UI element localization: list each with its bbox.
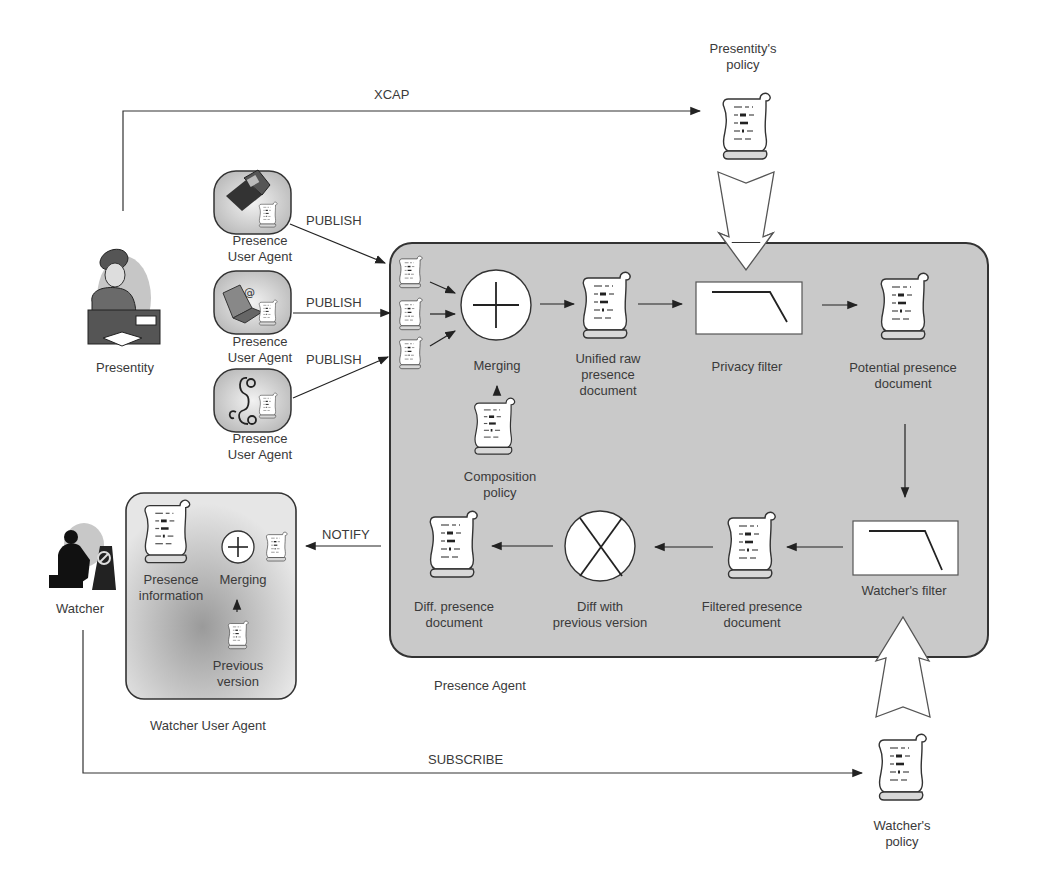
subscribe-label: SUBSCRIBE xyxy=(428,752,503,767)
presentity-label: Presentity xyxy=(96,360,154,376)
potential-presence-label: Potential presencedocument xyxy=(849,360,957,392)
composition-policy-document-icon xyxy=(475,398,515,454)
watcher-user-agent-title: Watcher User Agent xyxy=(150,718,266,734)
filtered-presence-label: Filtered presencedocument xyxy=(702,599,802,631)
watcher-policy-document-icon xyxy=(879,734,926,800)
merging-operator-icon xyxy=(461,270,531,340)
potential-presence-document-icon xyxy=(881,273,928,339)
watcher-person-icon xyxy=(49,523,116,590)
filtered-presence-document-icon xyxy=(728,512,775,578)
presence-user-agent-2: @ xyxy=(214,271,291,334)
presentity-person-icon xyxy=(88,249,160,346)
incoming-document-3-icon xyxy=(400,337,423,369)
svg-text:@: @ xyxy=(244,286,255,299)
presence-user-agent-3 xyxy=(214,369,291,432)
wua-incoming-document-icon xyxy=(266,532,287,561)
presence-information-document-icon xyxy=(145,500,190,562)
previous-version-document-icon xyxy=(228,621,248,649)
xcap-connector xyxy=(123,111,700,211)
watcher-policy-label: Watcher'spolicy xyxy=(874,818,931,850)
wua-merging-operator-icon xyxy=(222,531,254,563)
merging-label: Merging xyxy=(474,358,521,374)
watcher-label: Watcher xyxy=(56,601,104,617)
presence-information-label: Presenceinformation xyxy=(139,572,203,604)
presentity-policy-document-icon xyxy=(723,93,770,159)
publish-label-2: PUBLISH xyxy=(306,295,362,310)
wua-merging-label: Merging xyxy=(220,572,267,588)
pua-1-label: PresenceUser Agent xyxy=(228,233,292,265)
previous-version-label: Previousversion xyxy=(213,658,264,690)
watchers-filter-label: Watcher's filter xyxy=(861,583,946,599)
pua-2-label: PresenceUser Agent xyxy=(228,334,292,366)
privacy-filter-icon xyxy=(696,282,802,334)
unified-raw-document-icon xyxy=(583,272,630,338)
publish-label-3: PUBLISH xyxy=(306,352,362,367)
privacy-filter-label: Privacy filter xyxy=(712,359,783,375)
diff-presence-document-icon xyxy=(430,511,477,577)
xcap-label: XCAP xyxy=(374,87,409,102)
incoming-document-1-icon xyxy=(400,256,423,288)
diff-label: Diff withprevious version xyxy=(553,599,648,631)
watchers-filter-icon xyxy=(853,521,958,575)
pua-3-label: PresenceUser Agent xyxy=(228,431,292,463)
notify-label: NOTIFY xyxy=(322,527,370,542)
diff-presence-label: Diff. presencedocument xyxy=(414,599,494,631)
presence-user-agent-1 xyxy=(214,170,291,234)
diff-operator-icon xyxy=(565,511,635,581)
incoming-document-2-icon xyxy=(400,298,423,330)
publish-label-1: PUBLISH xyxy=(306,213,362,228)
composition-policy-label: Compositionpolicy xyxy=(464,469,536,501)
unified-raw-label: Unified rawpresencedocument xyxy=(575,351,640,399)
presentity-policy-label: Presentity'spolicy xyxy=(710,41,777,73)
presence-agent-title: Presence Agent xyxy=(434,678,526,694)
